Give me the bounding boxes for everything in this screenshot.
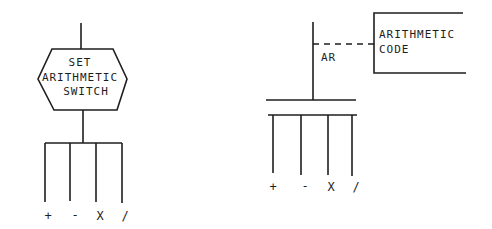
- hexagon-text-line-2: ARITHMETIC: [42, 71, 118, 84]
- register-label-ar: AR: [321, 51, 336, 64]
- flowchart-canvas: SET ARITHMETIC SWITCH + - X / AR ARITHME…: [0, 0, 492, 229]
- branch-label-minus: -: [71, 208, 78, 222]
- branch-label-divide: /: [352, 180, 359, 194]
- branch-label-minus: -: [301, 179, 308, 193]
- left-diagram: SET ARITHMETIC SWITCH + - X /: [38, 23, 129, 223]
- branch-label-plus: +: [269, 180, 276, 194]
- branch-label-divide: /: [121, 209, 128, 223]
- annotation-text-line-2: CODE: [379, 43, 410, 56]
- hexagon-text-line-1: SET: [69, 56, 92, 69]
- branch-label-plus: +: [44, 209, 51, 223]
- annotation-text-line-1: ARITHMETIC: [379, 28, 455, 41]
- hexagon-text-line-3: SWITCH: [63, 85, 109, 98]
- branch-label-times: X: [96, 209, 104, 223]
- right-diagram: AR ARITHMETIC CODE + - X /: [266, 13, 466, 194]
- branch-label-times: X: [327, 180, 335, 194]
